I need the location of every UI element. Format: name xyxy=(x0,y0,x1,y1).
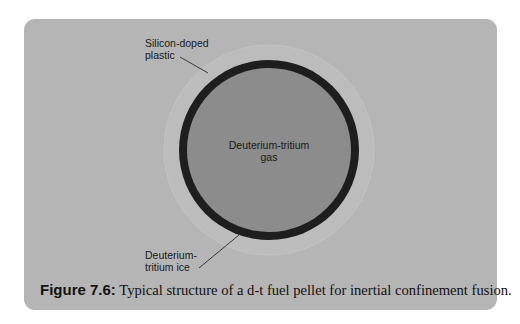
caption-text: Typical structure of a d-t fuel pellet f… xyxy=(116,282,512,298)
ice-label-line1: Deuterium- xyxy=(145,249,197,261)
ice-label: Deuterium- tritium ice xyxy=(145,249,197,273)
ice-label-line2: tritium ice xyxy=(145,261,197,273)
gas-label-line1: Deuterium-tritium xyxy=(219,139,319,151)
gas-label-line2: gas xyxy=(219,151,319,163)
gas-label: Deuterium-tritium gas xyxy=(219,139,319,163)
plastic-label-line1: Silicon-doped xyxy=(145,37,209,49)
plastic-label-line2: plastic xyxy=(145,49,209,61)
plastic-label: Silicon-doped plastic xyxy=(145,37,209,61)
figure-caption: Figure 7.6: Typical structure of a d-t f… xyxy=(40,281,512,299)
caption-label: Figure 7.6: xyxy=(40,281,116,298)
